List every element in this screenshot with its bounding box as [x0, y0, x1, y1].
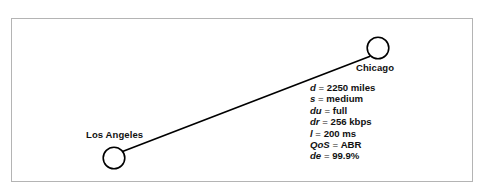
parameter-symbol: d [310, 82, 316, 93]
parameter-value: ABR [341, 139, 362, 150]
parameter-symbol: s [310, 93, 315, 104]
parameter-value: 99.9% [332, 150, 359, 161]
parameter-value: 200 ms [324, 128, 357, 139]
parameter-row-qos: QoS = ABR [310, 139, 430, 150]
parameter-symbol: de [310, 150, 321, 161]
node-circle-chicago[interactable] [367, 37, 389, 59]
parameter-value: 256 kbps [331, 116, 372, 127]
parameter-row-duplex: du = full [310, 105, 430, 116]
figure-root: Los Angeles Chicago d = 2250 miles s = m… [0, 0, 487, 193]
link-parameter-list: d = 2250 miles s = medium du = full dr =… [310, 82, 430, 162]
node-circle-los-angeles[interactable] [103, 147, 125, 169]
parameter-symbol: du [310, 105, 322, 116]
parameter-row-speed: s = medium [310, 93, 430, 104]
parameter-equals: = [322, 116, 328, 127]
parameter-equals: = [324, 105, 330, 116]
parameter-row-dependability: de = 99.9% [310, 150, 430, 161]
node-label-los-angeles: Los Angeles [86, 129, 143, 140]
parameter-equals: = [319, 82, 325, 93]
parameter-value: 2250 miles [327, 82, 376, 93]
parameter-equals: = [318, 93, 324, 104]
parameter-row-latency: l = 200 ms [310, 128, 430, 139]
parameter-symbol: QoS [310, 139, 330, 150]
parameter-equals: = [324, 150, 330, 161]
parameter-value: medium [326, 93, 363, 104]
parameter-equals: = [332, 139, 338, 150]
parameter-row-distance: d = 2250 miles [310, 82, 430, 93]
parameter-equals: = [315, 128, 321, 139]
parameter-symbol: dr [310, 116, 320, 127]
parameter-row-data-rate: dr = 256 kbps [310, 116, 430, 127]
parameter-symbol: l [310, 128, 313, 139]
parameter-value: full [333, 105, 347, 116]
node-label-chicago: Chicago [356, 62, 394, 73]
